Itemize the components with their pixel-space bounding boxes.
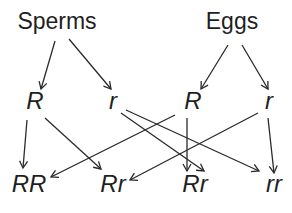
- egg-allele-R: R: [184, 89, 201, 113]
- arrow-sperms-to-r: [69, 39, 111, 89]
- arrow-sperm-r-to-rr: [126, 110, 259, 171]
- offspring-Rr-2: Rr: [182, 172, 207, 196]
- egg-allele-r: r: [265, 89, 273, 113]
- arrow-sperm-R-to-RR: [23, 120, 27, 168]
- arrow-egg-r-to-rr: [268, 118, 274, 173]
- arrow-egg-R-to-RR: [51, 115, 175, 177]
- arrow-sperms-to-R: [41, 41, 55, 89]
- punnett-flow-diagram: Sperms Eggs R r R r RR Rr Rr rr: [0, 0, 292, 213]
- offspring-Rr-1: Rr: [100, 172, 125, 196]
- arrow-eggs-to-r: [242, 45, 268, 89]
- sperms-label: Sperms: [17, 10, 96, 33]
- eggs-label: Eggs: [206, 10, 258, 33]
- offspring-RR: RR: [12, 172, 47, 196]
- sperm-allele-r: r: [109, 89, 117, 113]
- offspring-rr: rr: [266, 172, 282, 196]
- arrow-sperm-R-to-Rr1: [45, 118, 101, 169]
- sperm-allele-R: R: [26, 89, 43, 113]
- arrow-eggs-to-R: [201, 45, 228, 89]
